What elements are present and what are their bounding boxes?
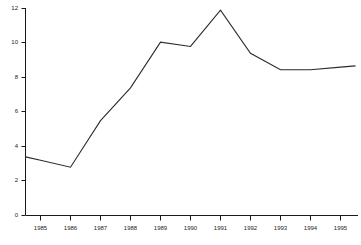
- data-line-series-1: [26, 10, 356, 167]
- y-tick-label-4: 4: [2, 143, 18, 150]
- x-tick-label-1991: 1991: [206, 225, 235, 232]
- x-tick-label-1989: 1989: [146, 225, 175, 232]
- y-tick-label-12: 12: [2, 5, 18, 12]
- plot-area: [0, 0, 361, 245]
- y-tick-label-6: 6: [2, 108, 18, 115]
- x-tick-label-1987: 1987: [86, 225, 115, 232]
- x-tick-label-1993: 1993: [266, 225, 295, 232]
- x-axis-ticks: [41, 216, 341, 221]
- y-tick-label-8: 8: [2, 74, 18, 81]
- x-tick-label-1986: 1986: [56, 225, 85, 232]
- x-tick-label-1985: 1985: [26, 225, 55, 232]
- x-tick-label-1992: 1992: [236, 225, 265, 232]
- x-tick-label-1994: 1994: [296, 225, 325, 232]
- y-tick-label-2: 2: [2, 177, 18, 184]
- x-tick-label-1988: 1988: [116, 225, 145, 232]
- x-tick-label-1995: 1995: [326, 225, 355, 232]
- y-axis-ticks: [22, 9, 26, 216]
- x-tick-label-1990: 1990: [176, 225, 205, 232]
- line-chart-figure: 12 10 8 6 4 2 0 1985 1986 1987 1988 1989…: [0, 0, 361, 245]
- y-tick-label-0: 0: [2, 212, 18, 219]
- y-tick-label-10: 10: [2, 39, 18, 46]
